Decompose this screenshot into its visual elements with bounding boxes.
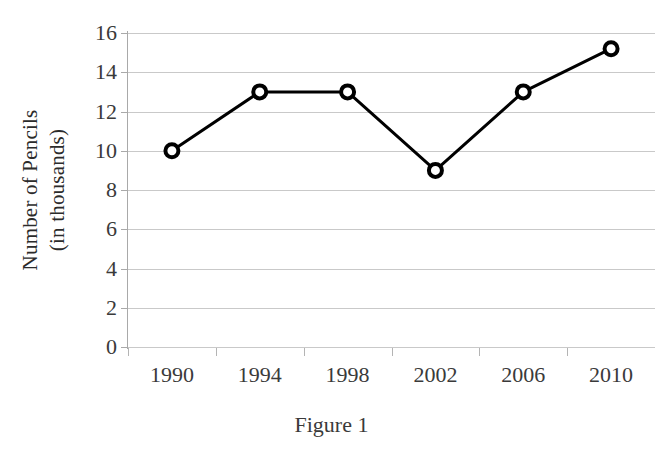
x-tick-mark xyxy=(216,348,217,356)
figure-container: Number of Pencils (in thousands) 0246810… xyxy=(0,0,663,453)
y-axis-tick-labels: 0246810121416 xyxy=(75,0,117,453)
data-point-marker xyxy=(165,144,178,157)
y-tick-mark xyxy=(121,190,128,191)
y-tick-mark xyxy=(121,308,128,309)
y-tick-label: 16 xyxy=(75,22,117,44)
y-tick-mark xyxy=(121,112,128,113)
series-polyline xyxy=(172,49,611,171)
y-tick-label: 10 xyxy=(75,140,117,162)
x-tick-mark xyxy=(567,348,568,356)
x-tick-mark xyxy=(128,348,129,356)
data-point-marker xyxy=(605,42,618,55)
y-axis-title-line-2: (in thousands) xyxy=(44,40,70,340)
y-tick-label: 14 xyxy=(75,61,117,83)
y-tick-mark xyxy=(121,33,128,34)
y-tick-label: 12 xyxy=(75,101,117,123)
y-tick-label: 8 xyxy=(75,179,117,201)
data-point-marker xyxy=(429,164,442,177)
y-axis-title-line-1: Number of Pencils xyxy=(17,40,43,340)
data-point-marker xyxy=(341,85,354,98)
y-tick-mark xyxy=(121,269,128,270)
figure-caption: Figure 1 xyxy=(0,412,663,438)
data-point-marker xyxy=(517,85,530,98)
x-tick-label: 2010 xyxy=(556,362,663,388)
x-tick-mark xyxy=(304,348,305,356)
y-tick-mark xyxy=(121,72,128,73)
y-tick-label: 2 xyxy=(75,297,117,319)
y-tick-label: 0 xyxy=(75,336,117,358)
y-tick-mark xyxy=(121,151,128,152)
y-tick-label: 4 xyxy=(75,258,117,280)
plot-area xyxy=(128,33,655,347)
gridline xyxy=(128,347,655,348)
y-tick-mark xyxy=(121,229,128,230)
data-point-marker xyxy=(253,85,266,98)
x-tick-mark xyxy=(392,348,393,356)
data-series-line xyxy=(128,33,655,347)
y-tick-label: 6 xyxy=(75,218,117,240)
y-tick-mark xyxy=(121,347,128,348)
x-tick-mark xyxy=(479,348,480,356)
